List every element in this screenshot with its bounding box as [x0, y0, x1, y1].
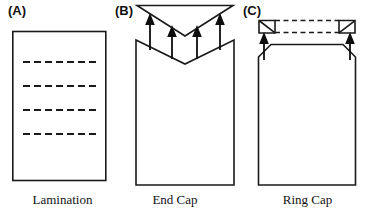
caption-end-cap: End Cap — [110, 192, 242, 208]
end-cap-body — [136, 40, 234, 185]
ring-cap-diagram — [240, 0, 375, 195]
figure-container: (A) Lamination (B) — [0, 0, 375, 217]
lamination-diagram — [0, 0, 125, 195]
panel-lamination: (A) Lamination — [0, 0, 125, 217]
lamination-block-outline — [13, 32, 106, 181]
end-cap-diagram — [110, 0, 240, 195]
panel-ring-cap: (C) Ring Cap — [240, 0, 375, 217]
ring-cap-body — [259, 45, 356, 186]
panel-end-cap: (B) End Cap — [110, 0, 240, 217]
caption-ring-cap: Ring Cap — [240, 192, 375, 208]
